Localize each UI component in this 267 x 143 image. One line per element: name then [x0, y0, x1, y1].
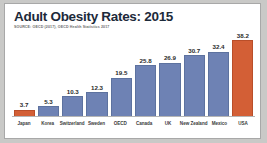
bar-sweden — [86, 92, 107, 117]
bar-column: 30.7 — [182, 31, 206, 117]
chart-card: Adult Obesity Rates: 2015 SOURCE: OECD (… — [4, 3, 261, 139]
bar-value-label: 10.3 — [67, 88, 79, 95]
x-label-cell: USA — [231, 119, 255, 131]
x-label-cell: Canada — [132, 119, 156, 131]
chart-header: Adult Obesity Rates: 2015 SOURCE: OECD (… — [14, 9, 254, 30]
category-label: UK — [165, 121, 172, 127]
category-label: Sweden — [88, 121, 105, 127]
bar-value-label: 5.3 — [44, 98, 53, 105]
bar-value-label: 3.7 — [20, 101, 29, 108]
bar-value-label: 32.4 — [213, 43, 225, 50]
category-label: Japan — [17, 121, 30, 127]
x-label-cell: Korea — [36, 119, 60, 131]
bar-series: 3.75.310.312.319.525.826.930.732.438.2 — [12, 31, 255, 117]
bar-column: 32.4 — [206, 31, 230, 117]
x-label-cell: Sweden — [85, 119, 109, 131]
x-axis-line — [12, 116, 255, 117]
bar-new-zealand — [184, 55, 205, 117]
bar-column: 5.3 — [36, 31, 60, 117]
bar-column: 26.9 — [158, 31, 182, 117]
x-label-cell: Japan — [12, 119, 36, 131]
bar-column: 25.8 — [133, 31, 157, 117]
bar-column: 3.7 — [12, 31, 36, 117]
x-axis-tick-labels: JapanKoreaSwitzerlandSwedenOECDCanadaUKN… — [12, 119, 255, 131]
bar-value-label: 12.3 — [91, 84, 103, 91]
bar-usa — [232, 40, 253, 117]
category-label: Canada — [136, 121, 152, 127]
category-label: Mexico — [212, 121, 227, 127]
x-label-cell: Mexico — [207, 119, 231, 131]
bar-column: 19.5 — [109, 31, 133, 117]
bar-value-label: 30.7 — [188, 47, 200, 54]
category-label: USA — [238, 121, 248, 127]
x-label-cell: Switzerland — [60, 119, 85, 131]
category-label: New Zealand — [180, 121, 208, 127]
bar-value-label: 38.2 — [237, 32, 249, 39]
bar-value-label: 25.8 — [140, 57, 152, 64]
category-label: OECD — [114, 121, 127, 127]
bar-value-label: 26.9 — [164, 54, 176, 61]
x-label-cell: UK — [156, 119, 180, 131]
chart-plot-area: 3.75.310.312.319.525.826.930.732.438.2 J… — [12, 31, 255, 134]
chart-source-note: SOURCE: OECD (2017), OECD Health Statist… — [14, 25, 254, 30]
bar-canada — [135, 65, 156, 117]
category-label: Korea — [41, 121, 54, 127]
bar-oecd — [111, 78, 132, 117]
bar-switzerland — [62, 96, 83, 117]
category-label: Switzerland — [60, 121, 85, 127]
bar-column: 12.3 — [85, 31, 109, 117]
bar-mexico — [208, 52, 229, 117]
chart-title: Adult Obesity Rates: 2015 — [14, 9, 254, 24]
bar-column: 38.2 — [231, 31, 255, 117]
bar-column: 10.3 — [61, 31, 85, 117]
x-label-cell: OECD — [108, 119, 132, 131]
bar-value-label: 19.5 — [115, 69, 127, 76]
x-label-cell: New Zealand — [180, 119, 208, 131]
bar-uk — [159, 63, 180, 117]
